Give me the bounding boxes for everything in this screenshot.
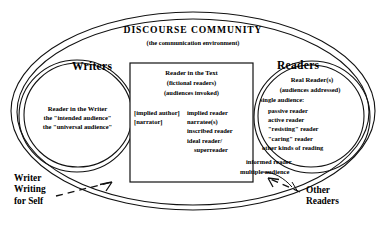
reader-in-the-writer-line-2: the "universal audience" <box>20 123 135 130</box>
writer-writing-for-self-arrow <box>56 182 112 196</box>
other-readers-line-1: Other <box>306 185 339 196</box>
ideal-reader-item: ideal reader/ <box>187 136 233 145</box>
narratee-item: narratee(s) <box>187 117 233 126</box>
narrator-item: [narrator] <box>134 117 180 126</box>
text-box-left-column: [implied author] [narrator] <box>134 108 180 126</box>
implied-reader-item: implied reader <box>187 108 233 117</box>
caring-reader-item: "caring" reader <box>268 134 323 143</box>
reader-in-the-text-heading: Reader in the Text <box>130 69 253 77</box>
audiences-addressed-sub: (audiences addressed) <box>256 86 364 93</box>
readers-kinds-list: passive reader active reader "resisting"… <box>268 106 323 152</box>
reader-in-the-writer-line-1: the "intended audience" <box>20 114 135 121</box>
writer-writing-for-self-line-3: for Self <box>14 196 46 207</box>
reader-in-the-text-sub-1: (fictional readers) <box>130 79 253 86</box>
other-readers-label: Other Readers <box>306 185 339 208</box>
inscribed-reader-item: inscribed reader <box>187 126 233 135</box>
readers-heading: Readers <box>277 59 319 72</box>
other-readers-line-2: Readers <box>306 196 339 207</box>
reader-in-the-writer-title: Reader in the Writer <box>20 105 135 113</box>
active-reader-item: active reader <box>268 115 323 124</box>
discourse-community-diagram: DISCOURSE COMMUNITY (the communication e… <box>0 0 386 230</box>
real-readers-title: Real Reader(s) <box>258 76 366 84</box>
other-kinds-of-reading-item: other kinds of reading <box>262 143 323 152</box>
diagram-subtitle: (the communication environment) <box>0 39 386 46</box>
superreader-item: superreader <box>187 145 233 154</box>
implied-author-item: [implied author] <box>134 108 180 117</box>
writers-heading: Writers <box>72 60 112 73</box>
writer-writing-for-self-line-1: Writer <box>14 173 46 184</box>
multiple-audience-label: multiple audience <box>240 168 289 175</box>
informed-reader-label: informed reader <box>246 158 292 165</box>
single-audience-label: single audience: <box>260 96 304 103</box>
resisting-reader-item: "resisting" reader <box>268 124 323 133</box>
reader-in-the-text-sub-2: (audiences invoked) <box>130 89 253 96</box>
passive-reader-item: passive reader <box>268 106 323 115</box>
diagram-title: DISCOURSE COMMUNITY <box>0 25 386 36</box>
writer-writing-for-self-line-2: Writing <box>14 184 46 195</box>
writer-writing-for-self-label: Writer Writing for Self <box>14 173 46 207</box>
text-box-right-column: implied reader narratee(s) inscribed rea… <box>187 108 233 154</box>
